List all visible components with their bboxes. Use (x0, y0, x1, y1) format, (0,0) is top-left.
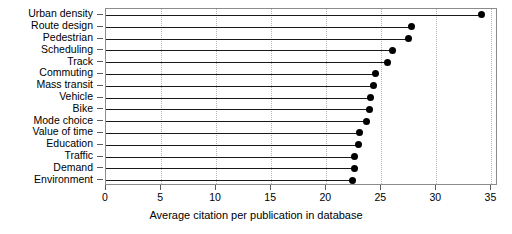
x-tick-label: 0 (85, 192, 125, 203)
x-tick-mark (105, 185, 106, 190)
y-tick-label: Mode choice (33, 115, 93, 126)
x-tick-label: 15 (250, 192, 290, 203)
y-tick-label: Mass transit (36, 79, 93, 90)
data-point (351, 165, 358, 172)
gridline-35 (491, 9, 492, 184)
y-axis-labels: Urban densityRoute designPedestrianSched… (0, 0, 93, 234)
stem (106, 157, 355, 158)
y-tick-mark (97, 73, 103, 74)
gridline-30 (436, 9, 437, 184)
x-tick-mark (270, 185, 271, 190)
y-tick-label: Track (67, 56, 93, 67)
x-tick-mark (490, 185, 491, 190)
y-tick-mark (97, 85, 103, 86)
stem (106, 98, 370, 99)
stem (106, 145, 358, 146)
stem (106, 27, 411, 28)
y-tick-mark (97, 26, 103, 27)
x-tick-label: 5 (140, 192, 180, 203)
y-tick-label: Vehicle (59, 91, 93, 102)
stem (106, 74, 376, 75)
y-tick-label: Pedestrian (43, 32, 93, 43)
stem (106, 50, 392, 51)
x-tick-mark (215, 185, 216, 190)
data-point (389, 47, 396, 54)
y-tick-label: Bike (73, 103, 93, 114)
y-tick-label: Value of time (32, 126, 93, 137)
data-point (408, 23, 415, 30)
gridline-5 (161, 9, 162, 184)
y-tick-label: Route design (31, 20, 93, 31)
x-tick-label: 25 (360, 192, 400, 203)
stem (106, 109, 369, 110)
x-tick-mark (380, 185, 381, 190)
stem (106, 39, 409, 40)
gridline-15 (271, 9, 272, 184)
y-tick-mark (97, 97, 103, 98)
data-point (367, 94, 374, 101)
y-tick-label: Traffic (64, 150, 93, 161)
y-tick-mark (97, 179, 103, 180)
y-tick-mark (97, 14, 103, 15)
y-tick-mark (97, 132, 103, 133)
y-tick-mark (97, 108, 103, 109)
y-tick-mark (97, 38, 103, 39)
y-tick-mark (97, 49, 103, 50)
x-tick-label: 10 (195, 192, 235, 203)
y-tick-label: Environment (34, 174, 93, 185)
y-tick-mark (97, 120, 103, 121)
stem (106, 121, 367, 122)
y-tick-mark (97, 167, 103, 168)
y-tick-label: Commuting (39, 67, 93, 78)
data-point (355, 141, 362, 148)
data-point (349, 177, 356, 184)
data-point (351, 153, 358, 160)
y-tick-mark (97, 61, 103, 62)
data-point (363, 118, 370, 125)
y-tick-mark (97, 156, 103, 157)
stem (106, 62, 388, 63)
x-tick-mark (435, 185, 436, 190)
x-tick-mark (160, 185, 161, 190)
stem (106, 168, 355, 169)
stem (106, 86, 374, 87)
data-point (366, 106, 373, 113)
x-axis-title: Average citation per publication in data… (0, 209, 512, 221)
y-tick-label: Urban density (28, 8, 93, 19)
x-tick-label: 35 (470, 192, 510, 203)
gridline-10 (216, 9, 217, 184)
data-point (405, 35, 412, 42)
data-point (356, 129, 363, 136)
citation-lollipop-chart: Urban densityRoute designPedestrianSched… (0, 0, 512, 234)
gridline-20 (326, 9, 327, 184)
plot-area (105, 8, 497, 185)
stem (106, 133, 359, 134)
gridline-25 (381, 9, 382, 184)
x-tick-mark (325, 185, 326, 190)
stem (106, 15, 481, 16)
stem (106, 180, 353, 181)
data-point (478, 11, 485, 18)
y-tick-label: Education (46, 138, 93, 149)
y-tick-label: Demand (53, 162, 93, 173)
y-tick-mark (97, 144, 103, 145)
data-point (372, 70, 379, 77)
x-tick-label: 20 (305, 192, 345, 203)
data-point (384, 59, 391, 66)
y-tick-label: Scheduling (41, 44, 93, 55)
data-point (370, 82, 377, 89)
x-tick-label: 30 (415, 192, 455, 203)
